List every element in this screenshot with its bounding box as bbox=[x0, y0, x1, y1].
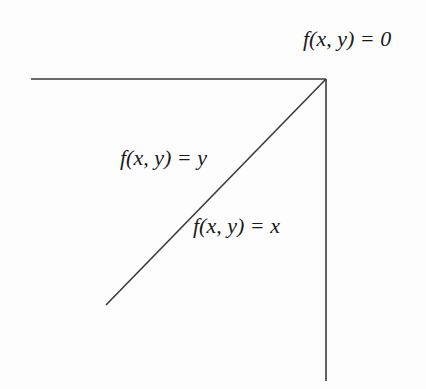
diagram-lines bbox=[0, 0, 426, 389]
diagonal-line bbox=[106, 79, 326, 305]
label-f-equals-y: f(x, y) = y bbox=[120, 145, 207, 171]
label-f-equals-zero: f(x, y) = 0 bbox=[303, 26, 391, 52]
label-f-equals-x: f(x, y) = x bbox=[193, 213, 280, 239]
